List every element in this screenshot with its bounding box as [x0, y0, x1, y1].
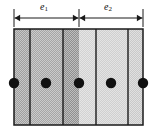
dimension-label-subscript: 1 [44, 5, 48, 13]
dimension-arrowhead-left [80, 15, 86, 21]
dimension-annotation-group [14, 9, 143, 27]
atom-dot [74, 78, 84, 88]
dimension-arrowhead-right [73, 15, 79, 21]
atom-dot [41, 78, 51, 88]
atom-dot [138, 78, 148, 88]
dimension-arrowhead-left [15, 15, 21, 21]
halftone-texture [14, 29, 143, 125]
dimension-label-subscript: 2 [108, 5, 112, 13]
atom-dot [106, 78, 116, 88]
dimension-arrowhead-right [137, 15, 143, 21]
dimension-label-e1: e1 [40, 2, 48, 13]
dimension-label-e2: e2 [104, 2, 112, 13]
lattice-cross-section-figure [0, 0, 157, 136]
atom-dot [9, 78, 19, 88]
